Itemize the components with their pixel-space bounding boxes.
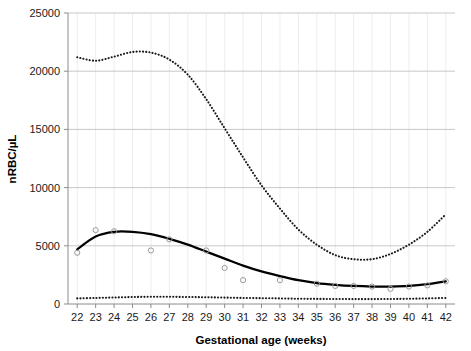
x-tick-label: 25 bbox=[126, 311, 138, 323]
x-tick-label: 36 bbox=[329, 311, 341, 323]
vertical-gridlines bbox=[77, 13, 446, 304]
y-axis-title: nRBC/µL bbox=[6, 135, 18, 184]
y-tick-label: 0 bbox=[54, 298, 60, 310]
y-tick-label: 25000 bbox=[29, 7, 60, 19]
x-tick-label: 38 bbox=[366, 311, 378, 323]
y-tick-label: 10000 bbox=[29, 182, 60, 194]
x-tick-label: 34 bbox=[292, 311, 304, 323]
x-tick-label: 33 bbox=[274, 311, 286, 323]
x-tick-label: 30 bbox=[219, 311, 231, 323]
nrbc-gestational-age-line-chart: 0500010000150002000025000 22232425262728… bbox=[0, 0, 471, 351]
x-axis-ticks bbox=[77, 304, 446, 308]
x-axis-title: Gestational age (weeks) bbox=[195, 334, 326, 346]
x-tick-label: 37 bbox=[348, 311, 360, 323]
x-tick-label: 22 bbox=[71, 311, 83, 323]
chart-container: 0500010000150002000025000 22232425262728… bbox=[0, 0, 471, 351]
x-tick-label: 32 bbox=[255, 311, 267, 323]
y-tick-label: 5000 bbox=[36, 240, 60, 252]
x-tick-label: 31 bbox=[237, 311, 249, 323]
x-tick-label: 35 bbox=[311, 311, 323, 323]
x-tick-label: 39 bbox=[384, 311, 396, 323]
x-tick-label: 40 bbox=[403, 311, 415, 323]
x-tick-label: 28 bbox=[182, 311, 194, 323]
x-tick-label: 29 bbox=[200, 311, 212, 323]
y-tick-label: 15000 bbox=[29, 123, 60, 135]
x-tick-label: 42 bbox=[440, 311, 452, 323]
x-tick-label: 23 bbox=[90, 311, 102, 323]
x-tick-label: 24 bbox=[108, 311, 120, 323]
x-axis-tick-labels: 2223242526272829303132333435363738394041… bbox=[71, 311, 452, 323]
y-tick-label: 20000 bbox=[29, 65, 60, 77]
x-tick-label: 26 bbox=[145, 311, 157, 323]
x-tick-label: 41 bbox=[421, 311, 433, 323]
x-tick-label: 27 bbox=[163, 311, 175, 323]
